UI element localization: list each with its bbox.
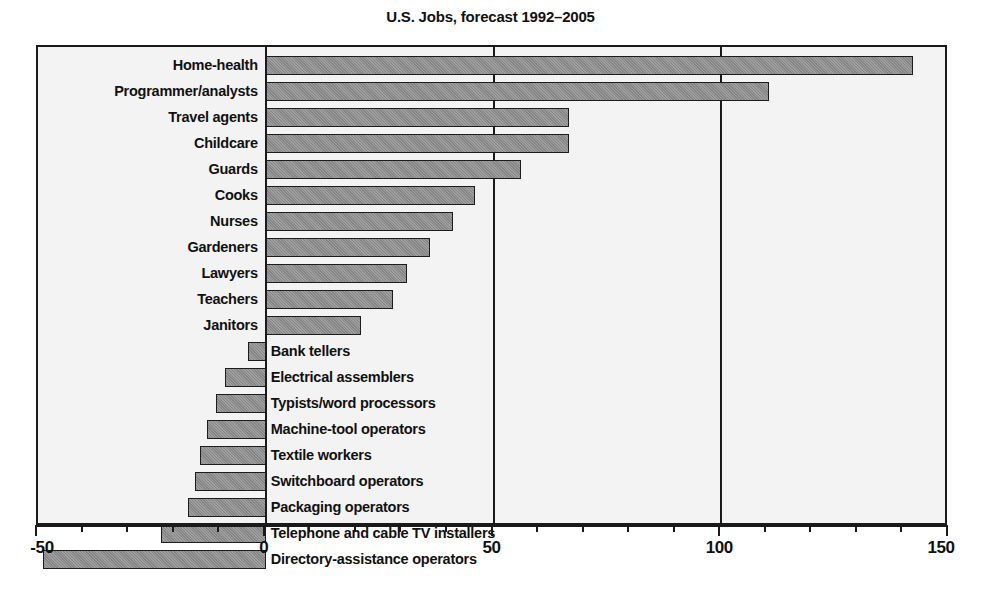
x-tick--30 (126, 525, 128, 532)
x-tick-80 (627, 525, 629, 532)
bar-label: Packaging operators (271, 497, 410, 517)
bar (266, 134, 569, 153)
x-tick-90 (673, 525, 675, 532)
x-tick-0 (263, 525, 265, 536)
x-tick-120 (809, 525, 811, 532)
bar-label: Machine-tool operators (271, 419, 426, 439)
bar-row: Janitors (38, 313, 945, 339)
bar (266, 186, 476, 205)
x-tick-label-100: 100 (706, 538, 733, 558)
bar-label: Switchboard operators (271, 471, 424, 491)
x-tick-label-0: 0 (259, 538, 268, 558)
x-tick-40 (445, 525, 447, 532)
bar (266, 56, 913, 75)
bar-row: Teachers (38, 287, 945, 313)
bar-label: Gardeners (187, 237, 257, 257)
bar (188, 498, 265, 517)
bar-row: Packaging operators (38, 495, 945, 521)
bar-row: Nurses (38, 209, 945, 235)
x-tick--20 (172, 525, 174, 532)
x-tick-150 (946, 525, 948, 536)
bar-label: Guards (208, 159, 257, 179)
bar-row: Machine-tool operators (38, 417, 945, 443)
x-tick-100 (718, 525, 720, 536)
bar (266, 264, 407, 283)
plot-inner: Home-healthProgrammer/analystsTravel age… (38, 47, 945, 523)
bar-row: Home-health (38, 53, 945, 79)
bar-label: Nurses (210, 211, 258, 231)
x-tick-label-50: 50 (482, 538, 500, 558)
bar-label: Home-health (173, 55, 258, 75)
bar-row: Gardeners (38, 235, 945, 261)
bar (248, 342, 266, 361)
bar (266, 238, 430, 257)
bar (195, 472, 266, 491)
x-tick-130 (855, 525, 857, 532)
bar (266, 108, 569, 127)
bar-label: Cooks (215, 185, 258, 205)
x-tick--10 (217, 525, 219, 532)
x-tick-140 (900, 525, 902, 532)
bar-label: Bank tellers (271, 341, 350, 361)
bar-label: Teachers (197, 289, 258, 309)
bar-label: Childcare (194, 133, 258, 153)
bar-row: Typists/word processors (38, 391, 945, 417)
bar (216, 394, 266, 413)
x-axis (36, 525, 947, 535)
bar (200, 446, 266, 465)
x-tick-110 (764, 525, 766, 532)
bar-row: Guards (38, 157, 945, 183)
x-tick-10 (308, 525, 310, 532)
bar-row: Childcare (38, 131, 945, 157)
bar (225, 368, 266, 387)
bar-row: Travel agents (38, 105, 945, 131)
bar-label: Textile workers (271, 445, 372, 465)
x-tick-30 (399, 525, 401, 532)
bar-row: Electrical assemblers (38, 365, 945, 391)
bar-label: Lawyers (201, 263, 257, 283)
bar-label: Travel agents (168, 107, 257, 127)
bar-row: Programmer/analysts (38, 79, 945, 105)
x-tick-20 (354, 525, 356, 532)
x-tick-label--50: -50 (30, 538, 53, 558)
bar (266, 316, 362, 335)
bar (266, 290, 394, 309)
bar-row: Cooks (38, 183, 945, 209)
bar-chart: U.S. Jobs, forecast 1992–2005 Home-healt… (0, 0, 981, 596)
chart-title: U.S. Jobs, forecast 1992–2005 (0, 8, 981, 25)
bar-row: Textile workers (38, 443, 945, 469)
bar-row: Lawyers (38, 261, 945, 287)
bar-label: Electrical assemblers (271, 367, 414, 387)
x-tick--40 (81, 525, 83, 532)
bar-row: Switchboard operators (38, 469, 945, 495)
bar-label: Janitors (203, 315, 257, 335)
bar-row: Bank tellers (38, 339, 945, 365)
x-tick-70 (582, 525, 584, 532)
bar (207, 420, 266, 439)
bar (266, 160, 521, 179)
x-tick-50 (491, 525, 493, 536)
bar (266, 82, 769, 101)
x-tick-label-150: 150 (927, 538, 954, 558)
x-tick-60 (536, 525, 538, 532)
plot-area: Home-healthProgrammer/analystsTravel age… (36, 45, 947, 525)
x-tick--50 (35, 525, 37, 536)
bar (266, 212, 453, 231)
x-axis-tick-labels: -50050100150 (0, 538, 981, 568)
bar-label: Typists/word processors (271, 393, 436, 413)
bar-label: Programmer/analysts (114, 81, 258, 101)
